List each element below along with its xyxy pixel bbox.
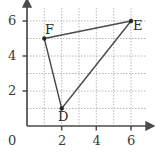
vertex-label-e: E: [133, 19, 143, 32]
x-tick-label-0: 0: [8, 134, 16, 147]
triangle-def: [44, 21, 131, 109]
x-tick-label-2: 2: [58, 134, 66, 147]
y-tick-label-6: 6: [8, 14, 16, 27]
y-tick-label-4: 4: [8, 49, 16, 62]
vertex-label-f: F: [45, 23, 54, 36]
y-tick-label-2: 2: [8, 84, 16, 97]
coordinate-plane-chart: 6 4 2 0 2 4 6 F E D: [0, 0, 155, 157]
x-tick-label-4: 4: [93, 134, 101, 147]
x-tick-label-6: 6: [127, 134, 135, 147]
vertex-label-d: D: [58, 110, 68, 123]
vertex-markers: [42, 19, 133, 111]
